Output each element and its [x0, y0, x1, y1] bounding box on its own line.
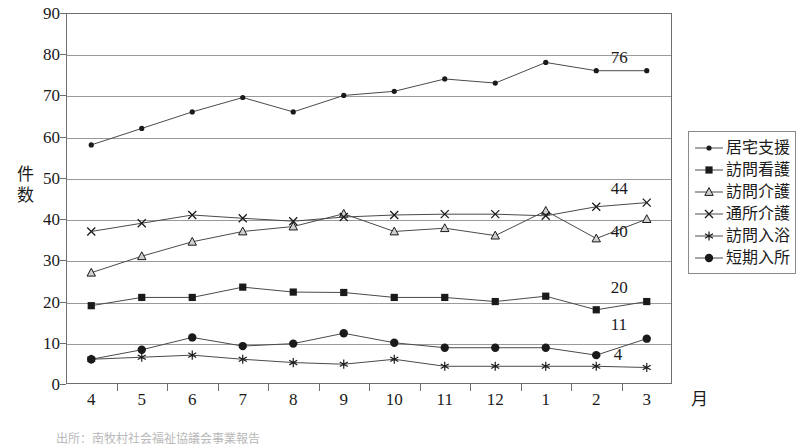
x-axis-tick-label: 6 — [172, 390, 212, 410]
series-通所介護 — [87, 351, 651, 373]
x-axis-tick-label: 1 — [526, 390, 566, 410]
value-label-通所介護: 4 — [614, 346, 623, 363]
x-axis-tick-label: 3 — [627, 390, 667, 410]
x-axis-tick — [167, 384, 168, 391]
x-axis-tick — [470, 384, 471, 391]
value-label-訪問介護: 40 — [611, 223, 628, 240]
filled-square-icon — [694, 160, 724, 180]
series-訪問介護 — [87, 206, 651, 276]
x-axis-title: 月 — [684, 390, 714, 410]
x-axis-tick — [420, 384, 421, 391]
x-axis-tick-label: 12 — [475, 390, 515, 410]
x-axis-tick — [319, 384, 320, 391]
legend-label: 通所介護 — [724, 204, 790, 224]
series-訪問入浴 — [87, 199, 651, 236]
x-axis-tick — [117, 384, 118, 391]
x-axis-tick-label: 11 — [425, 390, 465, 410]
x-cross-icon — [694, 204, 724, 224]
large-filled-circle-icon — [694, 248, 724, 268]
value-label-居宅支援: 76 — [611, 49, 628, 66]
legend-label: 訪問介護 — [724, 182, 790, 202]
legend-label: 訪問看護 — [724, 160, 790, 180]
series-訪問看護 — [88, 284, 651, 314]
value-label-短期入所: 11 — [611, 316, 627, 333]
legend-label: 短期入所 — [724, 248, 790, 268]
value-label-訪問入浴: 44 — [611, 180, 628, 197]
legend-item-訪問入浴[interactable]: 訪問入浴 — [694, 225, 791, 247]
open-triangle-icon — [694, 182, 724, 202]
x-axis-tick-label: 9 — [324, 390, 364, 410]
x-axis-tick-label: 5 — [122, 390, 162, 410]
legend-item-通所介護[interactable]: 通所介護 — [694, 203, 791, 225]
series-短期入所 — [87, 329, 651, 363]
x-axis-tick — [622, 384, 623, 391]
legend-item-訪問看護[interactable]: 訪問看護 — [694, 159, 791, 181]
x-axis-tick — [571, 384, 572, 391]
x-axis-tick — [521, 384, 522, 391]
legend-item-訪問介護[interactable]: 訪問介護 — [694, 181, 791, 203]
series-居宅支援 — [89, 60, 650, 148]
legend-item-居宅支援[interactable]: 居宅支援 — [694, 137, 791, 159]
asterisk-icon — [694, 226, 724, 246]
line-chart: 件 数 0102030405060708090 76204044411 4567… — [0, 0, 809, 448]
x-axis-tick — [268, 384, 269, 391]
x-axis-tick-label: 8 — [273, 390, 313, 410]
x-axis-tick — [369, 384, 370, 391]
legend-label: 訪問入浴 — [724, 226, 790, 246]
value-label-訪問看護: 20 — [611, 279, 628, 296]
x-axis-tick-label: 2 — [576, 390, 616, 410]
legend-label: 居宅支援 — [724, 138, 790, 158]
legend-item-短期入所[interactable]: 短期入所 — [694, 247, 791, 269]
x-axis-tick-label: 4 — [71, 390, 111, 410]
x-axis-tick-label: 10 — [374, 390, 414, 410]
source-caption: 出所：南牧村社会福祉協議会事業報告 — [56, 432, 260, 446]
small-filled-dot-icon — [694, 138, 724, 158]
x-axis-tick — [218, 384, 219, 391]
legend: 居宅支援訪問看護訪問介護通所介護訪問入浴短期入所 — [688, 131, 796, 274]
x-axis-tick-label: 7 — [223, 390, 263, 410]
